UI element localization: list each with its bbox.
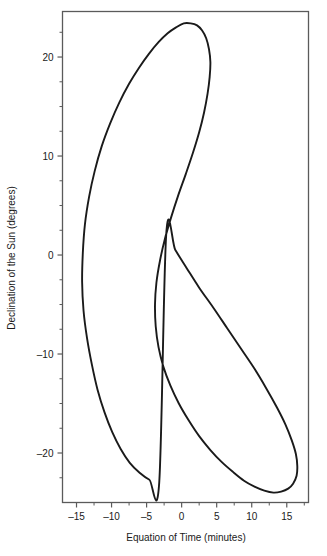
x-tick-label: 10 [246,511,258,522]
x-tick-label: –10 [103,511,120,522]
y-tick-label: 0 [48,250,54,261]
y-tick-label: 20 [42,52,54,63]
y-tick-label: –10 [37,349,54,360]
x-tick-label: 15 [281,511,293,522]
x-tick-label: 5 [214,511,220,522]
analemma-chart: –15–10–5051015 20100–10–20 Equation of T… [0,0,327,556]
y-tick-label: –20 [37,448,54,459]
y-tick-label: 10 [42,151,54,162]
chart-background [0,0,327,556]
x-tick-label: –5 [141,511,153,522]
x-axis-title: Equation of Time (minutes) [126,532,246,543]
x-tick-label: –15 [68,511,85,522]
analemma-figure: –15–10–5051015 20100–10–20 Equation of T… [0,0,327,556]
x-tick-label: 0 [179,511,185,522]
y-axis-title: Declination of the Sun (degrees) [6,186,17,329]
